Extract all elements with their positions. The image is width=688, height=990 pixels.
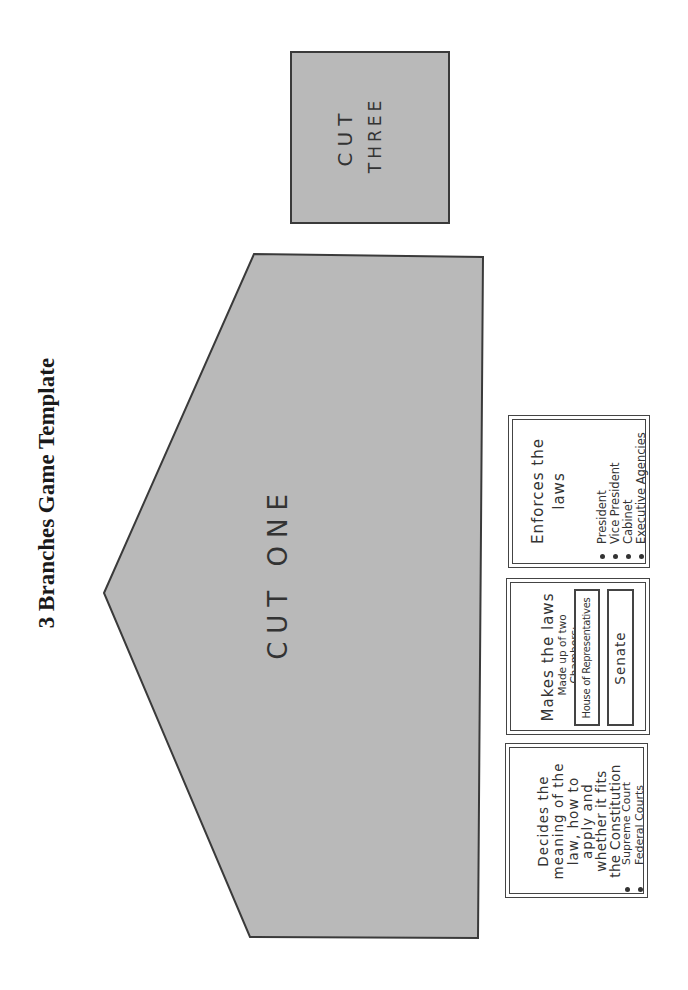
executive-heading-line1: Enforces the [527, 431, 549, 551]
bullet-icon [639, 554, 644, 559]
house-chamber-label: House of Representatives [579, 590, 595, 726]
bullet-icon [638, 887, 643, 892]
executive-list-item: Vice President [608, 419, 622, 559]
judicial-list-item: Federal Courts [633, 752, 647, 892]
judicial-item-federal-courts: Federal Courts [633, 785, 646, 865]
bullet-icon [613, 554, 618, 559]
executive-item-president: President [595, 490, 609, 544]
cut-three-label-line2: THREE [361, 80, 389, 190]
cut-one-label: CUT ONE [261, 483, 295, 663]
bullet-icon [600, 554, 605, 559]
executive-list-item: Cabinet [621, 419, 635, 559]
executive-list-item: President [595, 419, 609, 559]
senate-chamber-label: Senate [610, 608, 630, 708]
executive-heading-line2: laws [548, 431, 570, 551]
executive-list-item: Executive Agencies [634, 419, 648, 559]
executive-item-agencies: Executive Agencies [634, 432, 648, 544]
judicial-item-supreme-court: Supreme Court [620, 782, 633, 865]
executive-item-vice-president: Vice President [608, 462, 622, 544]
judicial-list-item: Supreme Court [620, 752, 634, 892]
bullet-icon [625, 887, 630, 892]
cut-three-label-line1: CUT [331, 97, 359, 177]
executive-item-cabinet: Cabinet [621, 500, 635, 544]
bullet-icon [626, 554, 631, 559]
